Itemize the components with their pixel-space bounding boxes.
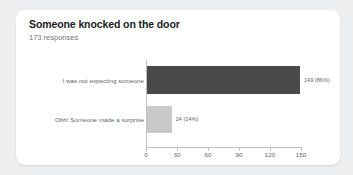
bar-1[interactable] (147, 106, 172, 133)
x-tick-label-5: 150 (296, 151, 306, 158)
question-result-card: Someone knocked on the door 173 response… (16, 10, 340, 165)
x-tick-label-2: 60 (205, 151, 212, 158)
response-count-label: 173 responses (29, 33, 78, 42)
x-tick-label-0: 0 (144, 151, 147, 158)
bar-category-label-1: Ohh! Someone made a surprise (55, 116, 144, 123)
horizontal-bar-chart: I was not expecting someone Ohh! Someone… (16, 50, 340, 165)
page-title: Someone knocked on the door (29, 18, 180, 30)
bar-value-label-1: 24 (14%) (176, 116, 199, 122)
x-tick-label-1: 30 (174, 151, 181, 158)
x-axis-line (146, 147, 301, 148)
bar-category-label-0: I was not expecting someone (63, 77, 145, 84)
x-tick-label-4: 120 (265, 151, 275, 158)
x-tick-label-3: 90 (236, 151, 243, 158)
bar-value-label-0: 149 (86%) (304, 77, 330, 83)
page-background: Someone knocked on the door 173 response… (0, 0, 353, 175)
bar-0[interactable] (147, 66, 300, 94)
